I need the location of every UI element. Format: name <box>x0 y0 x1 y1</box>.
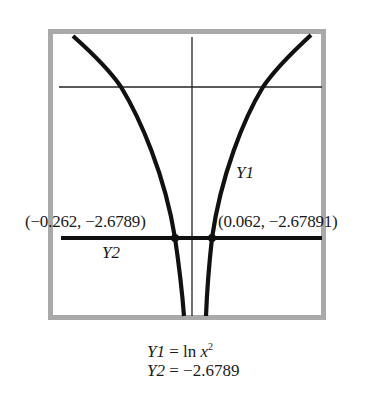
caption-y2-var: Y2 <box>147 361 165 380</box>
caption-y2-eq: = −2.6789 <box>165 361 239 380</box>
caption-line-y2: Y2 = −2.6789 <box>147 362 239 379</box>
y1-series-label: Y1 <box>236 164 254 181</box>
intersection-point-right <box>208 234 216 242</box>
y2-series-label: Y2 <box>102 244 120 261</box>
y1-right-branch <box>206 35 311 316</box>
caption-y1-exponent: 2 <box>208 341 213 352</box>
graph-figure: (−0.262, −2.6789) (0.062, −2.67891) Y1 Y… <box>0 0 387 405</box>
caption-y1-x: x <box>201 342 209 361</box>
caption-line-y1: Y1 = ln x2 <box>147 342 213 360</box>
caption-y1-var: Y1 <box>147 342 165 361</box>
right-intersection-label: (0.062, −2.67891) <box>218 213 338 230</box>
intersection-point-left <box>171 234 179 242</box>
y1-left-branch <box>73 36 184 316</box>
left-intersection-label: (−0.262, −2.6789) <box>25 213 146 230</box>
caption-y1-eq: = ln <box>165 342 201 361</box>
